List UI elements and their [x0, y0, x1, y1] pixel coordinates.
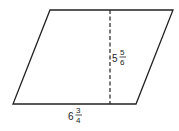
height-whole: 5	[112, 53, 118, 64]
height-denominator: 6	[120, 58, 125, 67]
base-whole: 6	[68, 111, 74, 122]
diagram-svg: 5 5 6 6 3 4	[0, 0, 179, 131]
base-denominator: 4	[76, 116, 81, 125]
parallelogram-outline	[13, 10, 173, 104]
height-label: 5 5 6	[112, 48, 126, 67]
base-numerator: 3	[76, 106, 81, 115]
parallelogram-diagram: 5 5 6 6 3 4	[0, 0, 179, 131]
base-label: 6 3 4	[68, 106, 82, 125]
height-numerator: 5	[120, 48, 125, 57]
